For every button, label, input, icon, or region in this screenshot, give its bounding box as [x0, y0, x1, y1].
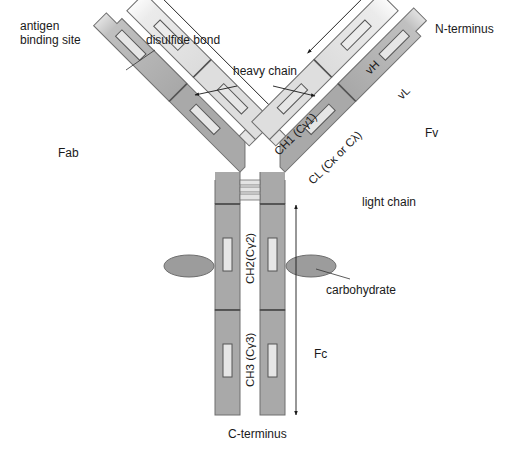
left-ch2-disulfide	[223, 238, 232, 271]
left-ch3-disulfide	[223, 344, 232, 377]
c-terminus-label: C-terminus	[228, 427, 287, 441]
light-chain-label: light chain	[362, 195, 416, 209]
carbohydrate-label: carbohydrate	[326, 283, 396, 297]
fc-label: Fc	[314, 347, 327, 361]
right-hinge	[260, 172, 285, 204]
ch3-label: CH3 (Cγ3)	[244, 333, 256, 387]
left-hinge	[215, 172, 240, 204]
right-carbohydrate	[286, 255, 336, 277]
left-arm	[94, 0, 288, 172]
fab-label: Fab	[58, 146, 79, 160]
hinge-disulfide-bonds	[240, 180, 260, 200]
ch2-label: CH2(Cγ2)	[244, 233, 256, 284]
n-terminus-label: N-terminus	[435, 22, 494, 36]
heavy-chain-label: heavy chain	[233, 64, 297, 78]
disulfide-bond-label: disulfide bond	[146, 33, 220, 47]
right-ch3-disulfide	[268, 344, 277, 377]
fv-label: Fv	[425, 126, 438, 140]
antigen-binding-site-label: antigen binding site	[20, 19, 81, 47]
left-carbohydrate	[164, 255, 214, 277]
right-ch2-disulfide	[268, 238, 277, 271]
